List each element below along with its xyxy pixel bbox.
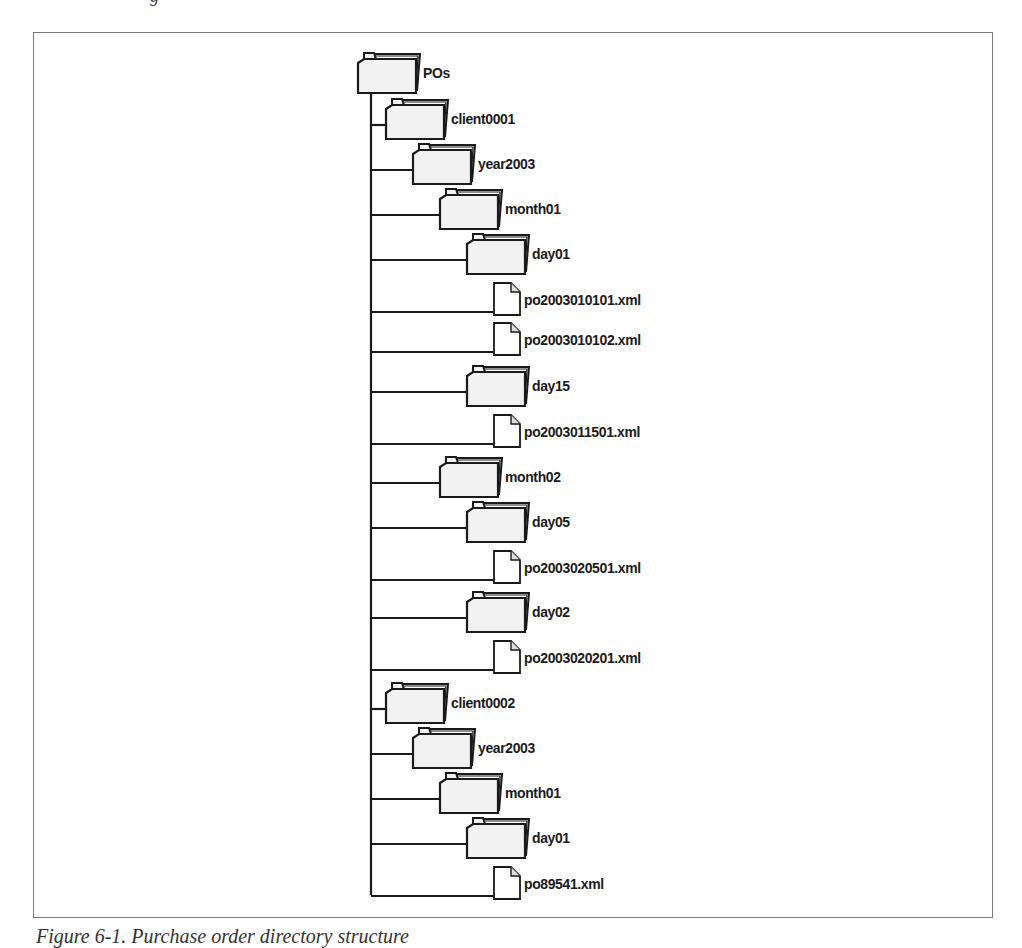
file-label: po2003010102.xml <box>524 331 641 349</box>
figure-caption: Figure 6-1. Purchase order directory str… <box>36 925 409 948</box>
file-node[interactable] <box>371 415 520 447</box>
folder-icon <box>386 683 448 723</box>
folder-node[interactable] <box>371 366 529 406</box>
folder-label: day02 <box>532 603 570 621</box>
file-label: po2003010101.xml <box>524 291 641 309</box>
folder-icon <box>440 773 502 813</box>
folder-label: day05 <box>532 513 570 531</box>
folder-node[interactable] <box>358 53 420 93</box>
folder-label: day15 <box>532 377 570 395</box>
file-icon <box>494 415 520 447</box>
file-label: po89541.xml <box>524 875 604 893</box>
folder-label: year2003 <box>478 739 535 757</box>
folder-icon <box>440 457 502 497</box>
folder-node[interactable] <box>371 144 475 184</box>
folder-label: day01 <box>532 829 570 847</box>
folder-label: client0001 <box>451 110 515 128</box>
file-node[interactable] <box>371 323 520 355</box>
folder-icon <box>467 234 529 274</box>
file-node[interactable] <box>371 551 520 583</box>
file-label: po2003020201.xml <box>524 649 641 667</box>
file-icon <box>494 641 520 673</box>
folder-icon <box>467 366 529 406</box>
folder-node[interactable] <box>371 592 529 632</box>
folder-node[interactable] <box>371 773 502 813</box>
folder-node[interactable] <box>371 457 502 497</box>
file-label: po2003020501.xml <box>524 559 641 577</box>
folder-node[interactable] <box>371 502 529 542</box>
folder-label: year2003 <box>478 155 535 173</box>
folder-label: month01 <box>505 784 561 802</box>
folder-icon <box>467 818 529 858</box>
folder-icon <box>413 728 475 768</box>
folder-icon <box>467 502 529 542</box>
folder-label: POs <box>423 64 450 82</box>
folder-node[interactable] <box>371 234 529 274</box>
folder-node[interactable] <box>371 189 502 229</box>
file-icon <box>494 323 520 355</box>
folder-icon <box>358 53 420 93</box>
folder-label: day01 <box>532 245 570 263</box>
folder-icon <box>386 99 448 139</box>
folder-node[interactable] <box>371 99 448 139</box>
folder-node[interactable] <box>371 728 475 768</box>
folder-icon <box>467 592 529 632</box>
file-icon <box>494 551 520 583</box>
folder-label: month02 <box>505 468 561 486</box>
folder-label: client0002 <box>451 694 515 712</box>
file-label: po2003011501.xml <box>524 423 640 441</box>
file-node[interactable] <box>371 283 520 315</box>
folder-icon <box>440 189 502 229</box>
folder-node[interactable] <box>371 683 448 723</box>
folder-label: month01 <box>505 200 561 218</box>
file-node[interactable] <box>371 867 520 899</box>
file-node[interactable] <box>371 641 520 673</box>
file-icon <box>494 867 520 899</box>
file-icon <box>494 283 520 315</box>
folder-icon <box>413 144 475 184</box>
folder-node[interactable] <box>371 818 529 858</box>
